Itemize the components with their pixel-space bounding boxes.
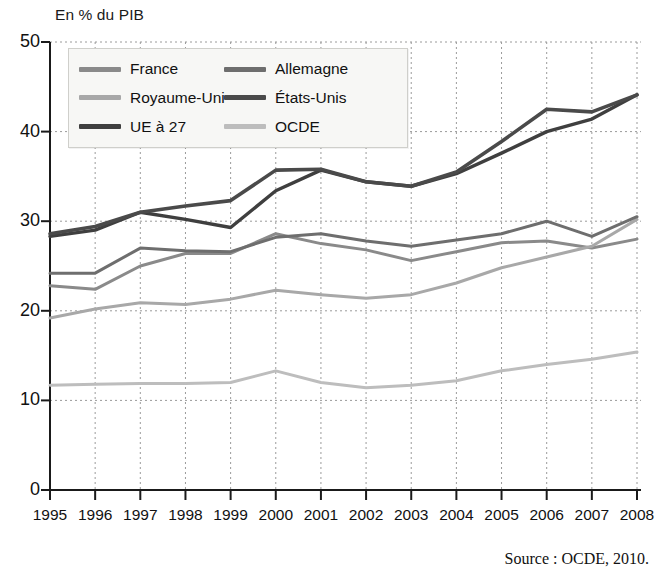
y-tick-label-10: 10 [6,389,40,410]
source-note: Source : OCDE, 2010. [505,550,649,568]
x-tick-label-1996: 1996 [72,506,118,524]
legend-label: France [130,60,178,78]
legend-label: UE à 27 [130,118,186,136]
series-line-france [50,234,637,290]
chart-legend: FranceAllemagneRoyaume-UniÉtats-UnisUE à… [68,48,408,148]
x-tick-label-2002: 2002 [343,506,389,524]
legend-item--tats-unis[interactable]: États-Unis [224,89,399,107]
legend-item-ue-27[interactable]: UE à 27 [79,118,224,136]
y-tick-label-40: 40 [6,121,40,142]
legend-swatch-icon [224,95,266,100]
x-tick-label-1997: 1997 [117,506,163,524]
y-tick-label-30: 30 [6,210,40,231]
y-tick-label-0: 0 [6,479,40,500]
legend-swatch-icon [224,67,266,72]
legend-label: OCDE [275,118,320,136]
legend-label: Allemagne [275,60,348,78]
chart-figure: En % du PIB 01020304050 1995199619971998… [0,0,659,576]
y-tick-label-20: 20 [6,300,40,321]
series-line-allemagne [50,217,637,273]
x-tick-label-2000: 2000 [253,506,299,524]
x-tick-label-1998: 1998 [162,506,208,524]
legend-label: États-Unis [275,89,347,107]
x-tick-label-2008: 2008 [614,506,659,524]
x-tick-label-1999: 1999 [208,506,254,524]
x-tick-label-2007: 2007 [569,506,615,524]
x-tick-label-2005: 2005 [479,506,525,524]
legend-item-france[interactable]: France [79,60,224,78]
legend-item-allemagne[interactable]: Allemagne [224,60,399,78]
series-line-ocde [50,352,637,388]
legend-item-royaume-uni[interactable]: Royaume-Uni [79,89,224,107]
legend-swatch-icon [79,95,121,100]
x-tick-label-2003: 2003 [388,506,434,524]
x-tick-label-2006: 2006 [524,506,570,524]
legend-swatch-icon [79,67,121,72]
legend-swatch-icon [224,124,266,129]
legend-label: Royaume-Uni [130,89,225,107]
legend-swatch-icon [79,124,121,129]
x-tick-label-2001: 2001 [298,506,344,524]
legend-item-ocde[interactable]: OCDE [224,118,399,136]
x-tick-label-2004: 2004 [433,506,479,524]
x-tick-label-1995: 1995 [27,506,73,524]
y-tick-label-50: 50 [6,31,40,52]
